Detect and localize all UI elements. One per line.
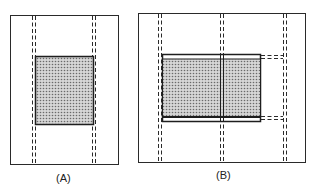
panel-b-label: (B) [216, 169, 231, 181]
panel-b-shaded-region [163, 59, 260, 117]
panel-a-label: (A) [56, 172, 71, 184]
panel-b [139, 14, 306, 163]
diagram-canvas [0, 0, 316, 188]
panel-b-dashed-extensions [261, 56, 283, 120]
panel-a-shaded-region [36, 57, 94, 125]
panel-a [11, 16, 119, 165]
